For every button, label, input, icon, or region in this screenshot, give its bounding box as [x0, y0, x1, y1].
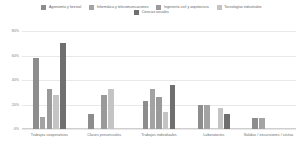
- legend-row-2: Ciencias sociales: [130, 10, 173, 15]
- y-axis-tick-label: 80%: [2, 29, 19, 33]
- legend-item-label: Tecnologías industriales: [224, 5, 261, 10]
- bar[interactable]: [170, 85, 176, 129]
- bar[interactable]: [47, 89, 53, 129]
- y-axis-tick-label: 60%: [2, 54, 19, 58]
- legend-swatch-icon: [89, 5, 94, 10]
- legend-item[interactable]: Ciencias sociales: [134, 10, 169, 15]
- bar-group: [22, 31, 77, 129]
- legend-item[interactable]: Agronomía y forestal: [41, 5, 81, 10]
- bar[interactable]: [40, 117, 46, 129]
- y-axis-tick-label: 0%: [2, 127, 19, 131]
- gridline: [22, 129, 296, 130]
- x-axis-category-label: Clases presenciales: [77, 131, 132, 145]
- bar[interactable]: [259, 118, 265, 129]
- bar[interactable]: [33, 58, 39, 129]
- bar[interactable]: [204, 105, 210, 130]
- bar-group: [77, 31, 132, 129]
- x-axis-category-label: Trabajos individuales: [132, 131, 187, 145]
- bar[interactable]: [101, 95, 107, 129]
- x-axis-category-label: Salidas / excursiones / visitas: [241, 131, 296, 145]
- bar-group: [132, 31, 187, 129]
- bar[interactable]: [156, 97, 162, 129]
- legend-item-label: Agronomía y forestal: [49, 5, 81, 10]
- legend-swatch-icon: [134, 10, 139, 15]
- grouped-bar-chart: Agronomía y forestalInformática y teleco…: [0, 0, 303, 147]
- bar[interactable]: [252, 118, 258, 129]
- bar-groups: [22, 31, 296, 129]
- bar[interactable]: [108, 89, 114, 129]
- plot-area: [22, 31, 296, 129]
- y-axis-tick-label: 20%: [2, 103, 19, 107]
- chart-legend: Agronomía y forestalInformática y teleco…: [0, 5, 303, 15]
- bar[interactable]: [88, 114, 94, 129]
- legend-swatch-icon: [217, 5, 222, 10]
- bar[interactable]: [198, 105, 204, 130]
- bar[interactable]: [53, 95, 59, 129]
- bar[interactable]: [163, 112, 169, 129]
- legend-item[interactable]: Tecnologías industriales: [217, 5, 262, 10]
- bar-group: [186, 31, 241, 129]
- x-axis-category-labels: Trabajos cooperativosClases presenciales…: [22, 131, 296, 145]
- legend-swatch-icon: [41, 5, 46, 10]
- bar[interactable]: [218, 108, 224, 129]
- x-axis-category-label: Laboratorios: [186, 131, 241, 145]
- bar[interactable]: [60, 43, 66, 129]
- y-axis-tick-label: 40%: [2, 78, 19, 82]
- bar[interactable]: [150, 89, 156, 129]
- bar[interactable]: [143, 101, 149, 129]
- bar[interactable]: [224, 114, 230, 129]
- x-axis-category-label: Trabajos cooperativos: [22, 131, 77, 145]
- legend-item-label: Ciencias sociales: [142, 10, 169, 15]
- bar-group: [241, 31, 296, 129]
